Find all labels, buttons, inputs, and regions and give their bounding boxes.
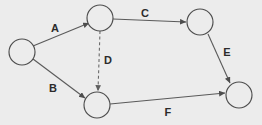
- node-n3[interactable]: [187, 9, 213, 35]
- edge-label-f: F: [165, 107, 172, 118]
- node-n5[interactable]: [226, 82, 252, 108]
- edge-a-line: [33, 23, 89, 46]
- graph-svg: [0, 0, 262, 125]
- edge-label-e: E: [223, 47, 231, 58]
- graph-canvas: A B C D E F: [0, 0, 262, 125]
- edge-c-line: [113, 19, 186, 22]
- node-n2[interactable]: [87, 5, 113, 31]
- edge-b-line: [33, 59, 85, 98]
- nodes-group: [9, 5, 252, 118]
- edge-e-line: [208, 34, 230, 83]
- node-n4[interactable]: [84, 92, 110, 118]
- edge-label-d: D: [104, 55, 112, 66]
- edge-label-b: B: [49, 83, 57, 94]
- node-n1[interactable]: [9, 39, 35, 65]
- edge-d-line: [98, 31, 100, 91]
- edge-label-a: A: [51, 23, 59, 34]
- edge-label-c: C: [141, 8, 149, 19]
- edge-f-line: [110, 93, 225, 104]
